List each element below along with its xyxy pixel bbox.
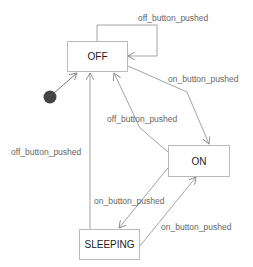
state-sleeping[interactable]: SLEEPING [80,230,140,260]
transition-on-to-off: off_button_pushed [107,73,178,152]
transition-label: off_button_pushed [138,13,209,23]
cutoff-title: ~ ~ ~~~~~~~ ~~~~~~~ ~~~ ~ [18,0,162,5]
transition-label: off_button_pushed [107,114,178,124]
state-label: ON [192,156,207,167]
transition-label: off_button_pushed [11,147,82,157]
state-label: SLEEPING [84,239,134,250]
transition-label: on_button_pushed [161,222,232,232]
transition-label: on_button_pushed [168,74,239,84]
transition-on-to-sleeping: on_button_pushed [94,168,168,228]
transition-sleeping-to-on: on_button_pushed [140,177,232,246]
transition-label: on_button_pushed [94,196,165,206]
state-off[interactable]: OFF [68,42,128,72]
initial-dot-icon [44,91,57,104]
state-on[interactable]: ON [169,146,230,177]
state-label: OFF [88,51,108,62]
state-diagram: ~ ~ ~~~~~~~ ~~~~~~~ ~~~ ~ off_button_pus… [0,0,253,267]
initial-state [44,73,78,104]
